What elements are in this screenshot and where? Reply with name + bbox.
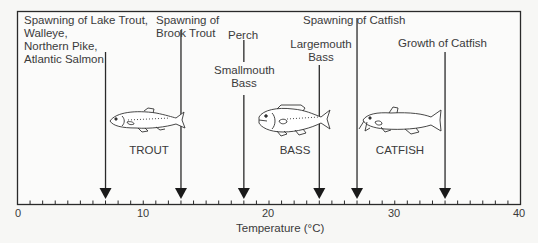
label-perch: Perch [228,29,258,42]
label-line: Walleye, [24,27,148,40]
label-catfish-spawning: Spawning of Catfish [303,14,405,27]
x-tick-label-30: 30 [388,207,400,219]
label-line: Northern Pike, [24,40,148,53]
label-line: Spawning of [156,14,219,27]
label-line: Smallmouth [214,64,274,77]
label-brook-trout-spawning: Spawning of Brook Trout [156,14,219,40]
x-tick-label-10: 10 [137,207,149,219]
label-line: Spawning of Lake Trout, [24,14,148,27]
fish-label-catfish: CATFISH [370,144,430,156]
fish-label-trout: TROUT [124,144,174,156]
label-line: Brook Trout [156,27,219,40]
fish-label-bass: BASS [270,144,320,156]
label-line: Bass [288,51,354,64]
x-axis-label: Temperature (°C) [236,222,324,234]
label-smallmouth-bass: Smallmouth Bass [214,64,274,90]
label-catfish-growth: Growth of Catfish [398,37,487,50]
x-tick-label-40: 40 [513,207,525,219]
label-line: Bass [214,77,274,90]
x-tick-label-0: 0 [15,207,21,219]
label-line: Largemouth [288,38,354,51]
label-line: Atlantic Salmon [24,53,148,66]
x-tick-label-20: 20 [262,207,274,219]
label-largemouth-bass: Largemouth Bass [288,38,354,64]
x-axis-ticks [18,201,521,205]
label-lake-trout-spawning: Spawning of Lake Trout, Walleye, Norther… [24,14,148,66]
